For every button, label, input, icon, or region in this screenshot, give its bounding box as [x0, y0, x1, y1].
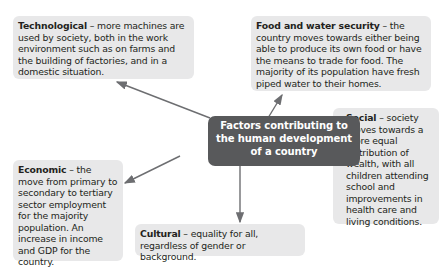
factor-food-water: Food and water security – the country mo…	[251, 16, 431, 91]
arrow-to-food-water	[268, 95, 282, 118]
factor-text: the move from primary to secondary to te…	[18, 164, 117, 267]
factor-economic: Economic – the move from primary to seco…	[13, 160, 123, 261]
center-line: Factors contributing to	[208, 119, 360, 132]
arrow-to-economic	[125, 156, 180, 183]
central-concept: Factors contributing to the human develo…	[208, 116, 360, 166]
factor-title: Technological	[18, 20, 87, 31]
arrow-to-technological	[117, 82, 210, 118]
factor-cultural: Cultural – equality for all, regardless …	[135, 224, 305, 256]
center-line: of a country	[208, 145, 360, 158]
factor-title: Food and water security	[256, 20, 380, 31]
factor-title: Economic	[18, 164, 66, 175]
center-line: the human development	[208, 132, 360, 145]
factor-title: Cultural	[140, 228, 181, 239]
factor-technological: Technological – more machines are used b…	[13, 16, 194, 79]
